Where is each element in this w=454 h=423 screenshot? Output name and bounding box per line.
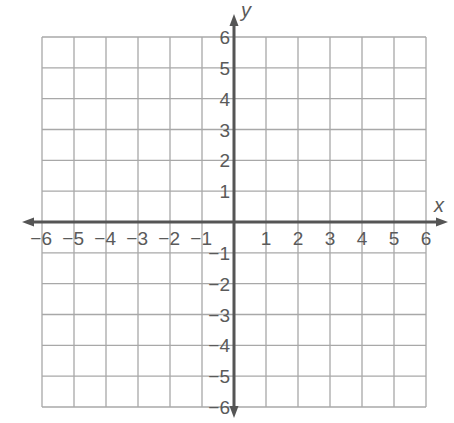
y-axis-down-arrow-icon [230, 406, 239, 418]
y-tick-label: −2 [208, 274, 230, 295]
x-tick-label: −3 [126, 228, 148, 249]
y-tick-label: −3 [208, 305, 230, 326]
x-tick-label: 6 [421, 228, 432, 249]
x-axis-left-arrow-icon [22, 218, 34, 227]
y-tick-label: 3 [219, 120, 230, 141]
x-tick-label: −5 [62, 228, 84, 249]
y-tick-label: 2 [219, 150, 230, 171]
y-tick-label: 5 [219, 58, 230, 79]
y-tick-label: 1 [219, 181, 230, 202]
axes [22, 14, 448, 418]
x-tick-label: −6 [30, 228, 52, 249]
x-tick-label: 3 [325, 228, 336, 249]
x-tick-label: 5 [389, 228, 400, 249]
x-tick-label: −4 [94, 228, 116, 249]
x-tick-label: −2 [158, 228, 180, 249]
y-tick-label: −4 [208, 335, 230, 356]
y-tick-label: 6 [219, 27, 230, 48]
x-tick-label: 4 [357, 228, 368, 249]
y-axis-label: y [239, 0, 252, 21]
x-tick-label: 1 [261, 228, 272, 249]
x-axis-label: x [433, 194, 445, 216]
y-tick-label: 4 [219, 89, 230, 110]
y-tick-label: −5 [208, 366, 230, 387]
x-tick-label: 2 [293, 228, 304, 249]
y-tick-label: −1 [208, 243, 230, 264]
x-tick-labels: −6−5−4−3−2−1123456 [30, 228, 431, 249]
x-axis-right-arrow-icon [436, 218, 448, 227]
y-tick-label: −6 [208, 397, 230, 418]
coordinate-plane: y x −6−5−4−3−2−1123456 654321−1−2−3−4−5−… [0, 0, 454, 423]
y-axis-up-arrow-icon [230, 14, 239, 26]
